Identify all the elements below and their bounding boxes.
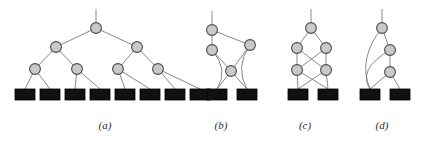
a-root (91, 23, 102, 34)
d-leaf-0 (360, 89, 380, 100)
d-n0 (377, 23, 388, 34)
a-l2-1 (72, 64, 83, 75)
edge-a-1 (96, 28, 137, 47)
a-l2-3 (153, 64, 164, 75)
a-l2-0 (30, 64, 41, 75)
c-m0 (292, 43, 303, 54)
b-n2 (245, 40, 256, 51)
c-root (306, 23, 317, 34)
b-n3 (226, 66, 237, 77)
stubs-layer (96, 9, 382, 25)
panel-caption-b: (b) (201, 119, 241, 131)
b-leaf-1 (237, 89, 257, 100)
panel-caption-a: (a) (85, 119, 125, 131)
d-leaf-1 (390, 89, 410, 100)
c-b0 (292, 65, 303, 76)
edge-d-4 (366, 28, 382, 89)
d-n2 (385, 67, 396, 78)
a-l1-0 (51, 42, 62, 53)
c-leaf-1 (318, 89, 338, 100)
a-leaf-4 (115, 89, 135, 100)
a-leaf-1 (40, 89, 60, 100)
a-leaf-6 (165, 89, 185, 100)
edge-a-13 (158, 69, 200, 89)
edge-b-1 (212, 30, 250, 45)
a-leaf-2 (65, 89, 85, 100)
b-leaf-0 (207, 89, 227, 100)
edge-a-0 (56, 28, 96, 47)
a-l2-2 (113, 64, 124, 75)
b-n0 (207, 25, 218, 36)
b-n1 (207, 45, 218, 56)
nodes-layer (30, 23, 396, 78)
c-leaf-0 (288, 89, 308, 100)
d-n1 (385, 45, 396, 56)
panel-caption-d: (d) (362, 119, 402, 131)
a-l1-1 (132, 42, 143, 53)
a-leaf-0 (15, 89, 35, 100)
edge-b-6 (212, 50, 222, 89)
panel-caption-c: (c) (285, 119, 325, 131)
c-b1 (321, 65, 332, 76)
edges-layer (25, 28, 400, 89)
c-m1 (321, 43, 332, 54)
a-leaf-5 (140, 89, 160, 100)
a-leaf-3 (90, 89, 110, 100)
leaves-layer (15, 89, 410, 100)
edge-b-7 (241, 45, 250, 89)
